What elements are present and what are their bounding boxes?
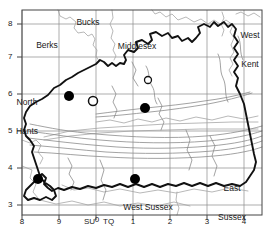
stream-j bbox=[238, 36, 243, 60]
marker-open bbox=[145, 77, 152, 84]
distribution-map: Bucks Berks Middlesex West Kent North Ha… bbox=[0, 0, 276, 242]
river-thames bbox=[96, 92, 250, 114]
boundary-radial-a bbox=[44, 122, 258, 137]
stream-e bbox=[68, 158, 74, 190]
contour-3 bbox=[28, 136, 262, 148]
marker-filled bbox=[130, 174, 140, 184]
marker-filled bbox=[33, 174, 43, 184]
map-canvas bbox=[0, 0, 276, 242]
boundary-bucks-middlesex bbox=[110, 10, 116, 60]
stream-b bbox=[158, 98, 164, 130]
stream-h bbox=[146, 66, 157, 104]
marker-filled bbox=[140, 103, 150, 113]
marker-filled bbox=[64, 91, 74, 101]
boundary-ne-corner bbox=[236, 12, 260, 17]
boundary-middlesex-north bbox=[152, 10, 208, 24]
marker-open bbox=[89, 97, 98, 106]
rivers-contours bbox=[28, 36, 262, 200]
stream-i bbox=[218, 54, 228, 102]
stream-a bbox=[112, 86, 117, 118]
boundary-berks-bucks bbox=[58, 10, 99, 61]
stream-f bbox=[100, 160, 106, 200]
stream-c bbox=[186, 130, 192, 170]
